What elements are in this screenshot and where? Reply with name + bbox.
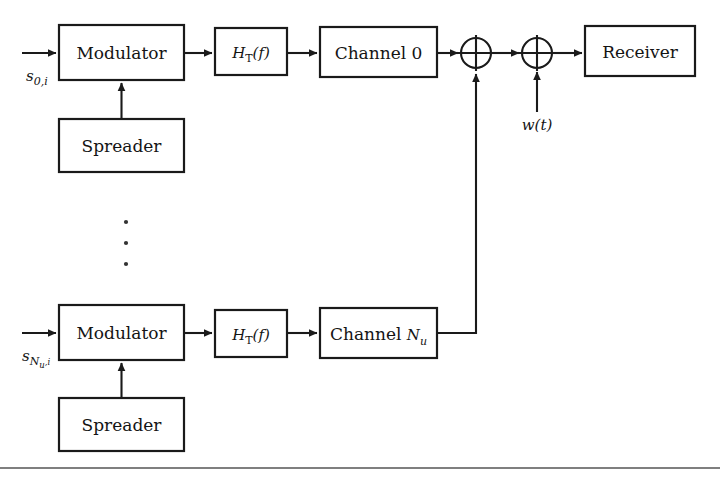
ellipsis-dot-1 [124,220,128,224]
modulator-bottom-label: Modulator [76,323,167,343]
spreader-bottom-label: Spreader [82,415,163,435]
channel-bottom-sub: u [420,335,427,348]
filter-bottom-arg: (f) [253,326,270,344]
noise-label: w(t) [522,116,553,134]
input-signal-top-label: s0,i [26,67,48,88]
channel-top-label: Channel 0 [335,43,423,63]
filter-bottom-h: H [231,326,246,344]
input-signal-bottom-label: sNu,i [22,347,51,370]
filter-top-h: H [231,44,246,62]
input-signal-bottom-sub-var: N [29,355,40,368]
block-diagram-figure: Modulator HT(f) Channel 0 Receiver w(t) [0,0,720,477]
input-signal-top-sub: 0,i [34,75,48,88]
ellipsis-dot-3 [124,262,128,266]
wire-channel-bottom-to-adder-users [437,74,476,333]
channel-bottom-text: Channel [330,324,407,344]
channel-bottom-var: N [406,326,421,344]
diagram-canvas: Modulator HT(f) Channel 0 Receiver w(t) [0,0,720,477]
modulator-top-label: Modulator [76,43,167,63]
input-signal-bottom-sub-tail: ,i [45,357,51,367]
ellipsis-dot-2 [124,241,128,245]
receiver-label: Receiver [602,42,679,62]
spreader-top-label: Spreader [82,136,163,156]
filter-top-arg: (f) [253,44,270,62]
